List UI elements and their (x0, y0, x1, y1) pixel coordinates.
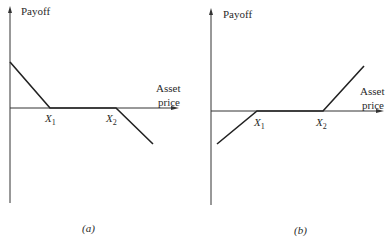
x1-label-a: X1 (45, 112, 56, 129)
x-axis-label-line2-b: price (362, 99, 384, 111)
x2-label-a: X2 (106, 112, 117, 129)
y-axis-arrow-icon (209, 8, 213, 15)
y-axis-label-a: Payoff (21, 5, 50, 17)
payoff-line-a (10, 62, 153, 144)
payoff-line-b (217, 66, 364, 144)
y-axis-label-b: Payoff (223, 8, 252, 20)
x-axis-label-line1-b: Asset (360, 85, 384, 97)
panel-a: Payoff Asset price X1 X2 (a) (0, 0, 194, 239)
payoff-diagram-a (0, 0, 194, 239)
panel-b: Payoff Asset price X1 X2 (b) (194, 0, 388, 239)
y-axis-arrow-icon (8, 6, 12, 13)
x1-label-b: X1 (254, 116, 265, 133)
caption-b: (b) (294, 224, 307, 236)
x-axis-label-line2-a: price (158, 96, 180, 108)
x-axis-label-line1-a: Asset (156, 82, 180, 94)
x2-label-b: X2 (316, 116, 327, 133)
caption-a: (a) (82, 222, 95, 234)
payoff-diagram-b (194, 0, 388, 239)
